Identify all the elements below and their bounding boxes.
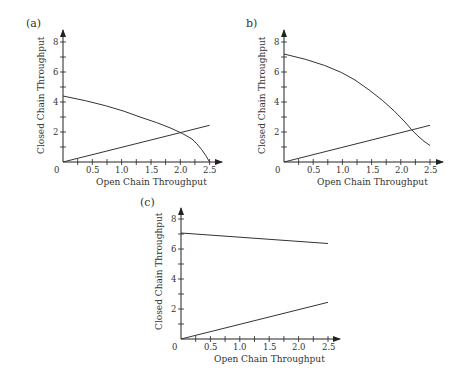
x-tick-label: 1.0 — [115, 165, 129, 175]
y-tick-label: 2 — [274, 127, 279, 137]
x-tick-label: 1.5 — [263, 342, 277, 352]
linear-line — [181, 302, 328, 339]
y-tick-label: 4 — [171, 274, 176, 284]
y-tick-label: 4 — [274, 97, 279, 107]
panel-a-label: (a) — [26, 17, 41, 30]
x-tick-label: 2.5 — [424, 165, 438, 175]
origin-label: 0 — [275, 165, 280, 175]
x-axis-title: Open Chain Throughput — [214, 354, 325, 364]
x-tick-label: 0.5 — [204, 342, 218, 352]
panel-b: b) 0 0.5 1.0 1.5 2.0 2.5 2 4 6 8 Open Ch… — [246, 17, 443, 187]
y-tick-label: 6 — [53, 67, 58, 77]
y-tick-label: 2 — [53, 127, 58, 137]
linear-line — [63, 125, 210, 162]
closed-chain-curve — [284, 54, 430, 146]
x-tick-label: 1.0 — [233, 342, 247, 352]
x-tick-label: 0.5 — [86, 165, 100, 175]
y-tick-label: 6 — [171, 244, 176, 254]
x-tick-label: 2.0 — [395, 165, 409, 175]
panel-c: (c) 0 0.5 1.0 1.5 2.0 2.5 2 4 6 8 Open C… — [140, 196, 340, 364]
x-tick-label: 2.5 — [203, 165, 217, 175]
closed-chain-curve — [63, 96, 210, 162]
x-tick-label: 1.0 — [336, 165, 350, 175]
y-tick-label: 8 — [171, 214, 176, 224]
y-tick-label: 8 — [53, 37, 58, 47]
y-tick-label: 4 — [53, 97, 58, 107]
x-axis-title: Open Chain Throughput — [96, 177, 207, 187]
x-tick-label: 2.5 — [322, 342, 336, 352]
origin-label: 0 — [172, 342, 177, 352]
y-axis-title: Closed Chain Throughput — [154, 212, 164, 330]
y-tick-label: 8 — [274, 37, 279, 47]
x-tick-label: 0.5 — [307, 165, 321, 175]
x-tick-label: 2.0 — [292, 342, 306, 352]
y-tick-label: 6 — [274, 67, 279, 77]
y-tick-label: 2 — [171, 304, 176, 314]
panel-c-label: (c) — [140, 196, 155, 209]
figure: (a) 0 0.5 1.0 1.5 2.0 2.5 2 4 6 8 Open C… — [0, 0, 464, 381]
linear-line — [284, 125, 430, 162]
panel-b-label: b) — [246, 17, 257, 30]
panel-a: (a) 0 0.5 1.0 1.5 2.0 2.5 2 4 6 8 Open C… — [26, 17, 222, 187]
x-tick-label: 1.5 — [366, 165, 380, 175]
x-axis-title: Open Chain Throughput — [317, 177, 428, 187]
y-axis-title: Closed Chain Throughput — [36, 36, 46, 154]
x-tick-label: 2.0 — [174, 165, 188, 175]
x-tick-label: 1.5 — [145, 165, 159, 175]
closed-chain-curve — [181, 233, 328, 244]
origin-label: 0 — [54, 165, 59, 175]
y-axis-title: Closed Chain Throughput — [257, 36, 267, 154]
